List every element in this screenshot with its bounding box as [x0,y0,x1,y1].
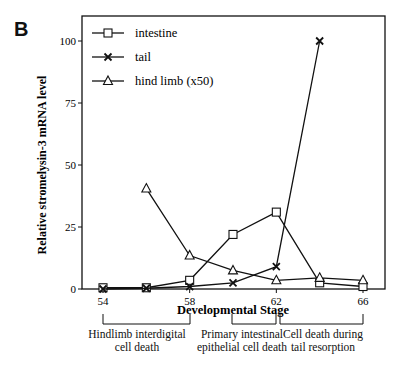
x-tick-label: 54 [98,295,110,307]
series-line-square [103,212,363,288]
data-point-triangle [142,184,151,193]
annotation-intestinal: Primary intestinal epithelial cell death [196,328,288,354]
annotation-intestinal-line2: epithelial cell death [196,341,288,354]
annotation-tail-line1: Cell death during [281,328,365,341]
annotation-tail: Cell death during tail resorption [281,328,365,354]
x-axis-label: Developmental Stage [177,303,290,317]
plot-frame [82,16,385,289]
y-axis-label: Relative stromelysin-3 mRNA level [35,75,49,254]
data-point-square [229,230,237,238]
line-chart: 025507510054586266Developmental StageRel… [0,0,397,366]
annotation-hindlimb-line2: cell death [82,341,192,354]
y-tick-label: 0 [71,283,77,295]
legend-label: intestine [135,26,178,40]
y-tick-label: 100 [60,35,77,47]
series-line-triangle [146,189,363,281]
y-tick-label: 75 [65,97,77,109]
data-point-square [272,208,280,216]
annotation-bracket [280,314,363,324]
annotation-hindlimb-line1: Hindlimb interdigital [82,328,192,341]
legend-marker-square [104,29,112,37]
annotation-tail-line2: tail resorption [281,341,365,354]
legend-label: hind limb (x50) [135,74,213,88]
legend-label: tail [135,50,151,64]
legend-marker-triangle [104,76,113,85]
annotation-hindlimb: Hindlimb interdigital cell death [82,328,192,354]
x-tick-label: 66 [358,295,370,307]
annotation-intestinal-line1: Primary intestinal [196,328,288,341]
y-tick-label: 25 [65,221,77,233]
y-tick-label: 50 [65,159,77,171]
